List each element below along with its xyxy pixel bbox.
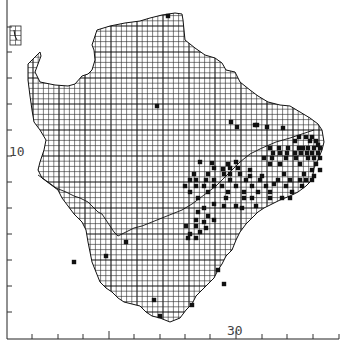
record-dot xyxy=(234,204,238,208)
record-dot xyxy=(282,172,286,176)
record-dot xyxy=(212,218,216,222)
record-dot xyxy=(277,146,281,150)
record-dot xyxy=(318,156,322,160)
record-dot xyxy=(202,220,206,224)
record-dot xyxy=(272,182,276,186)
record-dot xyxy=(256,190,260,194)
record-dot xyxy=(264,184,268,188)
record-dot xyxy=(202,184,206,188)
record-dot xyxy=(285,151,289,155)
record-dot xyxy=(306,146,310,150)
record-dot xyxy=(280,196,284,200)
inset-grid xyxy=(10,26,21,45)
record-dot xyxy=(278,162,282,166)
record-dot xyxy=(268,162,272,166)
record-dot xyxy=(248,168,252,172)
record-dot xyxy=(288,196,292,200)
record-dot xyxy=(204,226,208,230)
map-canvas: 10 30 xyxy=(0,0,352,347)
record-dot xyxy=(206,172,210,176)
record-dot xyxy=(304,178,308,182)
record-dot xyxy=(294,156,298,160)
record-dot xyxy=(242,190,246,194)
record-dot xyxy=(301,146,305,150)
record-dot xyxy=(198,160,202,164)
record-dot xyxy=(206,190,210,194)
record-dot xyxy=(268,196,272,200)
record-dot xyxy=(194,224,198,228)
record-dot xyxy=(312,146,316,150)
record-dot xyxy=(312,156,316,160)
record-dot xyxy=(194,218,198,222)
record-dot xyxy=(183,184,187,188)
record-dot xyxy=(104,254,108,258)
record-dot xyxy=(265,125,269,129)
record-dot xyxy=(310,178,314,182)
record-dot xyxy=(72,260,76,264)
record-dot xyxy=(202,206,206,210)
record-dot xyxy=(271,151,275,155)
record-dot xyxy=(158,314,162,318)
record-dot xyxy=(302,172,306,176)
record-dot xyxy=(293,151,297,155)
grid-squares xyxy=(0,0,352,339)
record-dot xyxy=(190,303,194,307)
record-dot xyxy=(198,230,202,234)
record-dot xyxy=(152,298,156,302)
record-dot xyxy=(229,120,233,124)
record-dot xyxy=(166,14,170,18)
record-dot xyxy=(258,178,262,182)
record-dot xyxy=(310,168,314,172)
record-dots xyxy=(72,14,322,318)
record-dot xyxy=(290,190,294,194)
distribution-map: 10 30 xyxy=(0,0,352,347)
axes: 10 30 xyxy=(7,0,339,339)
record-dot xyxy=(244,178,248,182)
record-dot xyxy=(235,125,239,129)
y-axis-ticks xyxy=(7,27,12,312)
record-dot xyxy=(194,178,198,182)
record-dot xyxy=(155,104,159,108)
record-dot xyxy=(250,184,254,188)
record-dot xyxy=(226,162,230,166)
record-dot xyxy=(238,172,242,176)
record-dot xyxy=(228,172,232,176)
record-dot xyxy=(234,184,238,188)
record-dot xyxy=(222,282,226,286)
record-dot xyxy=(310,135,314,139)
record-dot xyxy=(234,160,238,164)
record-dot xyxy=(212,202,216,206)
record-dot xyxy=(299,151,303,155)
record-dot xyxy=(278,151,282,155)
record-dot xyxy=(124,240,128,244)
record-dot xyxy=(308,139,312,143)
record-dot xyxy=(248,174,252,178)
record-dot xyxy=(242,196,246,200)
record-dot xyxy=(210,161,214,165)
record-dot xyxy=(222,204,226,208)
record-dot xyxy=(212,178,216,182)
record-dot xyxy=(212,166,216,170)
record-dot xyxy=(268,146,272,150)
record-dot xyxy=(310,151,314,155)
record-dot xyxy=(240,206,244,210)
record-dot xyxy=(228,166,232,170)
record-dot xyxy=(206,214,210,218)
record-dot xyxy=(297,146,301,150)
record-dot xyxy=(196,196,200,200)
record-dot xyxy=(221,167,225,171)
record-dot xyxy=(318,168,322,172)
record-dot xyxy=(216,268,220,272)
record-dot xyxy=(306,156,310,160)
record-dot xyxy=(314,162,318,166)
record-dot xyxy=(194,184,198,188)
record-dot xyxy=(204,178,208,182)
record-dot xyxy=(281,126,285,130)
record-dot xyxy=(298,162,302,166)
record-dot xyxy=(226,190,230,194)
record-dot xyxy=(288,178,292,182)
x-axis-ticks xyxy=(32,331,339,339)
record-dot xyxy=(316,151,320,155)
record-dot xyxy=(212,184,216,188)
record-dot xyxy=(270,156,274,160)
